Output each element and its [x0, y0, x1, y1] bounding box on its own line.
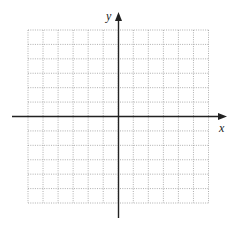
y-axis-arrow-icon — [115, 12, 122, 21]
y-axis-label: y — [106, 10, 111, 22]
x-axis — [12, 113, 227, 120]
coordinate-plane: x y — [0, 0, 233, 228]
grid-svg — [0, 0, 233, 228]
x-axis-label: x — [219, 122, 224, 134]
x-axis-arrow-icon — [218, 113, 227, 120]
y-axis — [115, 12, 122, 218]
